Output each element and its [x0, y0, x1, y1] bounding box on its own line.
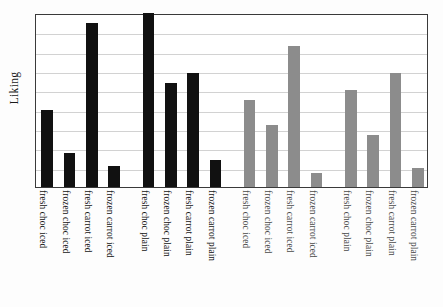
- x-tick-label: frozen choc plain: [160, 190, 174, 284]
- x-tick-label: frozen choc iced: [59, 190, 73, 284]
- bar: [108, 166, 120, 187]
- bar: [187, 73, 199, 187]
- bar: [390, 73, 402, 187]
- x-tick-label: fresh carrot iced: [81, 190, 95, 284]
- x-axis-tick-labels: fresh choc icedfrozen choc icedfresh car…: [35, 190, 428, 290]
- bar: [41, 110, 53, 187]
- bar: [143, 13, 155, 187]
- x-tick-label: fresh choc iced: [239, 190, 253, 284]
- x-tick-label: frozen carrot plain: [407, 190, 421, 284]
- bar: [266, 125, 278, 187]
- bar: [244, 100, 256, 187]
- x-tick-label: fresh carrot iced: [283, 190, 297, 284]
- x-tick-label: fresh choc plain: [340, 190, 354, 284]
- x-tick-label: fresh carrot plain: [385, 190, 399, 284]
- bar: [64, 153, 76, 187]
- x-tick-label: fresh choc iced: [36, 190, 50, 284]
- bar: [367, 135, 379, 187]
- x-tick-label: frozen carrot iced: [306, 190, 320, 284]
- bar: [86, 23, 98, 187]
- bar: [210, 160, 222, 187]
- bar: [311, 173, 323, 187]
- x-tick-label: frozen choc iced: [261, 190, 275, 284]
- figure: Liking fresh choc icedfrozen choc icedfr…: [0, 0, 443, 307]
- bar-series: [36, 15, 427, 187]
- x-tick-label: frozen choc plain: [362, 190, 376, 284]
- x-tick-label: frozen carrot plain: [205, 190, 219, 284]
- bar: [345, 90, 357, 187]
- x-tick-label: fresh choc plain: [138, 190, 152, 284]
- plot-area: [35, 14, 428, 188]
- bar: [165, 83, 177, 187]
- bar: [412, 168, 424, 187]
- bar: [288, 46, 300, 187]
- x-tick-label: fresh carrot plain: [182, 190, 196, 284]
- x-tick-label: frozen carrot iced: [103, 190, 117, 284]
- y-axis-title: Liking: [8, 48, 28, 128]
